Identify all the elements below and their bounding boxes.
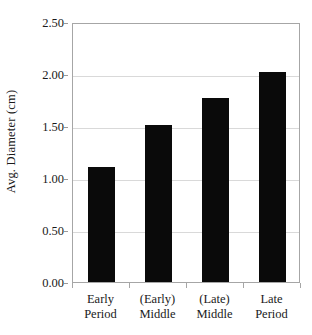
y-axis-tick-label: 0.00 bbox=[42, 276, 64, 291]
x-axis-category-label: LatePeriod bbox=[243, 292, 300, 321]
y-axis-tick-mark bbox=[64, 23, 68, 24]
x-axis-category-label-line: (Early) bbox=[129, 292, 186, 307]
x-axis-category-label: (Early)Middle bbox=[129, 292, 186, 321]
x-axis-category-label-line: Late bbox=[243, 292, 300, 307]
y-axis-tick-mark bbox=[64, 179, 68, 180]
y-axis-tick-label: 1.00 bbox=[42, 172, 64, 187]
x-axis-category-label: (Late)Middle bbox=[186, 292, 243, 321]
x-axis-category-label-line: Middle bbox=[129, 307, 186, 322]
x-axis-category-label-line: Early bbox=[72, 292, 129, 307]
x-axis-category-label-line: Period bbox=[243, 307, 300, 322]
bar bbox=[88, 167, 115, 282]
x-axis-tick-mark bbox=[72, 283, 73, 288]
x-axis-category-label-line: Middle bbox=[186, 307, 243, 322]
y-axis-tick-label: 2.00 bbox=[42, 68, 64, 83]
bar bbox=[259, 72, 286, 282]
x-axis-tick-mark bbox=[243, 283, 244, 288]
x-axis-category-label: EarlyPeriod bbox=[72, 292, 129, 321]
y-axis-tick-label: 1.50 bbox=[42, 120, 64, 135]
x-axis-tick-mark bbox=[186, 283, 187, 288]
x-axis-tick-mark bbox=[300, 283, 301, 288]
x-axis-tick-mark bbox=[129, 283, 130, 288]
bar bbox=[145, 125, 172, 282]
y-axis-tick-mark bbox=[64, 75, 68, 76]
y-axis-tick-label: 2.50 bbox=[42, 16, 64, 31]
y-axis-tick-mark bbox=[64, 283, 68, 284]
y-axis-tick-mark bbox=[64, 231, 68, 232]
y-axis-title-text: Avg. Diameter (cm) bbox=[5, 90, 20, 194]
bar-chart-figure: Avg. Diameter (cm) 0.000.501.001.502.002… bbox=[0, 0, 312, 335]
y-axis-tick-label: 0.50 bbox=[42, 224, 64, 239]
y-axis-title: Avg. Diameter (cm) bbox=[0, 0, 24, 283]
bar bbox=[202, 98, 229, 282]
plot-area bbox=[72, 23, 300, 283]
y-axis-tick-labels: 0.000.501.001.502.002.50 bbox=[22, 0, 68, 335]
x-axis-category-label-line: (Late) bbox=[186, 292, 243, 307]
x-axis-category-label-line: Period bbox=[72, 307, 129, 322]
y-axis-tick-mark bbox=[64, 127, 68, 128]
